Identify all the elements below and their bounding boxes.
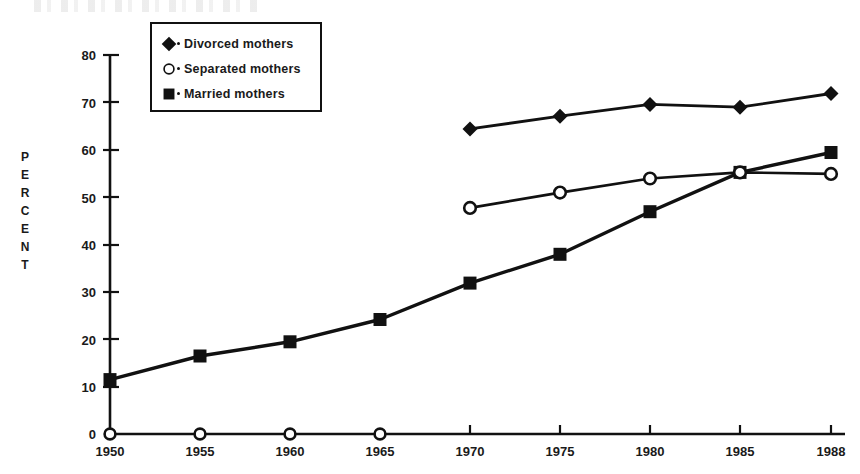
- x-axis-ticks: [470, 425, 831, 434]
- data-point-married-1988: [825, 146, 838, 159]
- series-markers-married-mothers: [104, 146, 838, 386]
- data-point-separated-1975: [554, 187, 566, 199]
- data-point-separated-1980: [644, 173, 656, 185]
- data-point-divorced-1985: [733, 100, 748, 115]
- series-markers-divorced-mothers: [463, 86, 839, 136]
- series-line-married-mothers: [110, 153, 831, 380]
- series-married-mothers: [104, 146, 838, 386]
- data-point-separated-1960: [285, 429, 296, 440]
- series-markers-separated-mothers: [105, 167, 837, 440]
- data-point-married-1980: [644, 205, 657, 218]
- series-separated-mothers: [105, 167, 837, 440]
- plot-area: [0, 0, 860, 474]
- data-point-married-1950: [104, 373, 117, 386]
- data-point-married-1965: [374, 313, 387, 326]
- data-point-divorced-1970: [463, 121, 478, 136]
- data-point-divorced-1988: [824, 86, 839, 101]
- data-point-married-1975: [554, 248, 567, 261]
- data-point-married-1955: [194, 350, 207, 363]
- series-divorced-mothers: [463, 86, 839, 136]
- data-point-separated-1970: [464, 202, 476, 214]
- data-point-separated-1985: [734, 167, 746, 179]
- data-point-married-1960: [284, 335, 297, 348]
- data-point-separated-1988: [825, 168, 837, 180]
- data-point-separated-1965: [375, 429, 386, 440]
- data-point-separated-1950: [105, 429, 116, 440]
- data-point-separated-1955: [195, 429, 206, 440]
- chart-figure: P E R C E N T 0 10 20 30 40 50 60 70 80 …: [0, 0, 860, 474]
- data-point-divorced-1975: [553, 109, 568, 124]
- data-point-divorced-1980: [643, 97, 658, 112]
- data-point-married-1970: [464, 277, 477, 290]
